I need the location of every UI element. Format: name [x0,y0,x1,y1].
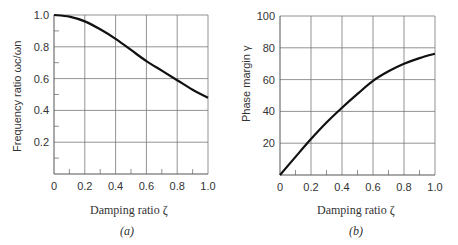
y-tick-label: 0.2 [34,136,49,148]
y-tick-label: 0.4 [34,104,49,116]
x-tick-label: 0.4 [108,180,123,192]
y-tick-label: 60 [263,74,275,86]
x-tick-label: 0 [277,181,283,193]
x-tick-label: 1.0 [200,180,215,192]
data-curve [54,15,208,98]
y-tick-label: 0.6 [34,73,49,85]
x-tick-label: 0.8 [170,180,185,192]
y-tick-label: 100 [257,10,275,22]
x-tick-label: 0.2 [303,181,318,193]
x-tick-label: 0.6 [365,181,380,193]
chart-a: 00.20.40.60.81.00.20.40.60.81.0 Frequenc… [0,0,229,245]
x-tick-label: 0.8 [396,181,411,193]
chart-a-caption: (a) [120,224,134,239]
y-tick-label: 80 [263,42,275,54]
x-tick-label: 0.2 [77,180,92,192]
chart-b-caption: (b) [349,224,363,239]
chart-a-ylabel: Frequency ratio ωc/ωn [11,41,23,152]
x-tick-label: 0.4 [334,181,349,193]
y-tick-label: 1.0 [34,9,49,21]
grid [54,15,208,174]
y-tick-label: 40 [263,105,275,117]
y-tick-label: 0.8 [34,41,49,53]
x-tick-label: 0.6 [139,180,154,192]
chart-b-xlabel: Damping ratio ζ [317,203,395,218]
grid [280,16,435,175]
chart-b: 00.20.40.60.81.020406080100 Phase margin… [229,0,458,245]
data-curve [280,54,435,175]
y-tick-label: 20 [263,137,275,149]
chart-b-ylabel: Phase margin γ [240,46,252,122]
x-tick-label: 1.0 [427,181,442,193]
chart-a-xlabel: Damping ratio ζ [90,203,168,218]
x-tick-label: 0 [51,180,57,192]
